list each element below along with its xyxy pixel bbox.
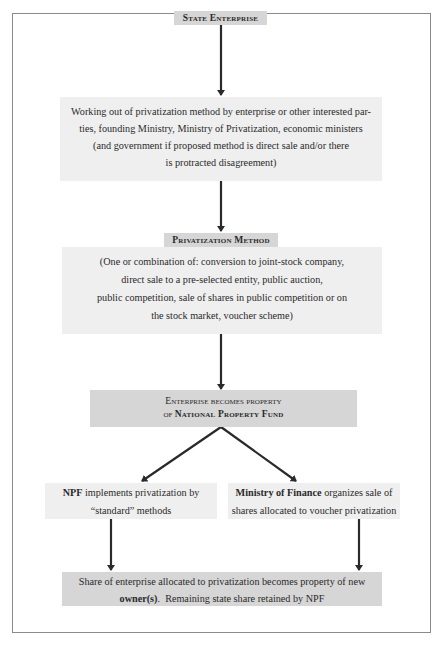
- node-privatization-method-title: Privatization Method: [164, 233, 278, 247]
- node-ministry-finance: Ministry of Finance organizes sale of sh…: [228, 483, 400, 519]
- node-npf-property: Enterprise becomes property of National …: [90, 390, 357, 427]
- npf-property-line-2: of National Property Fund: [90, 408, 357, 421]
- npf-property-line-1: Enterprise becomes property: [90, 395, 357, 408]
- npf-standard-line-2: “standard” methods: [45, 504, 217, 518]
- node-state-enterprise: State Enterprise: [174, 11, 267, 25]
- ministry-finance-line-1: Ministry of Finance organizes sale of: [228, 486, 400, 500]
- node-privatization-method: (One or combination of: conversion to jo…: [62, 247, 382, 334]
- method-line-1: (One or combination of: conversion to jo…: [62, 255, 382, 269]
- npf-standard-line-1: NPF implements privatization by: [45, 486, 217, 500]
- arrow-npf-to-finance: [221, 427, 296, 481]
- node-state-enterprise-label: State Enterprise: [183, 13, 258, 23]
- final-line-2: owner(s). Remaining state share retained…: [62, 592, 382, 606]
- npf-property-bold: National Property Fund: [175, 409, 284, 419]
- arrow-npf-to-standard: [142, 427, 221, 481]
- npf-standard-bold: NPF: [63, 487, 83, 498]
- privatization-method-label: Privatization Method: [172, 235, 269, 245]
- method-line-2: direct sale to a pre-selected entity, pu…: [62, 273, 382, 287]
- node-npf-standard: NPF implements privatization by “standar…: [45, 483, 217, 519]
- method-line-4: the stock market, voucher scheme): [62, 309, 382, 323]
- ministry-finance-rest: organizes sale of: [322, 487, 393, 498]
- final-rest: . Remaining state share retained by NPF: [157, 593, 324, 604]
- npf-standard-rest: implements privatization by: [82, 487, 199, 498]
- working-out-line-4: is protracted disagreement): [60, 156, 382, 170]
- ministry-finance-line-2: shares allocated to voucher privatizatio…: [228, 504, 400, 518]
- final-line-1: Share of enterprise allocated to privati…: [62, 575, 382, 589]
- working-out-line-1: Working out of privatization method by e…: [60, 105, 382, 119]
- ministry-finance-bold: Ministry of Finance: [236, 487, 322, 498]
- method-line-3: public competition, sale of shares in pu…: [62, 291, 382, 305]
- working-out-line-3: (and government if proposed method is di…: [60, 139, 382, 153]
- node-final: Share of enterprise allocated to privati…: [62, 572, 382, 606]
- final-bold: owner(s): [120, 593, 158, 604]
- npf-property-prefix: of: [163, 409, 172, 419]
- node-working-out: Working out of privatization method by e…: [60, 97, 382, 181]
- working-out-line-2: ties, founding Ministry, Ministry of Pri…: [60, 122, 382, 136]
